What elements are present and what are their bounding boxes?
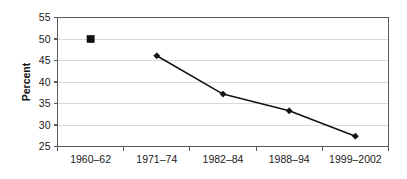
y-axis-tick-label: 25 [39, 140, 51, 152]
y-axis-tick-label: 55 [39, 11, 51, 23]
x-axis-category-label: 1960–62 [70, 153, 111, 165]
y-axis-tick-label: 45 [39, 54, 51, 66]
line-chart: 25303540455055 1960–621971–741982–841988… [0, 0, 407, 179]
x-axis-category-label: 1971–74 [136, 153, 177, 165]
x-axis-category-label: 1999–2002 [329, 153, 382, 165]
y-axis-tick-label: 35 [39, 97, 51, 109]
x-axis-category-label: 1988–94 [269, 153, 310, 165]
chart-container: 25303540455055 1960–621971–741982–841988… [0, 0, 407, 179]
y-axis-tick-label: 30 [39, 119, 51, 131]
y-axis-tick-label: 40 [39, 76, 51, 88]
x-axis-category-label: 1982–84 [203, 153, 244, 165]
data-series: 1960–62: 50 [87, 35, 94, 42]
y-axis-title: Percent [20, 62, 32, 101]
data-point-square-marker: 1960–62: 50 [87, 35, 94, 42]
y-axis-tick-label: 50 [39, 33, 51, 45]
